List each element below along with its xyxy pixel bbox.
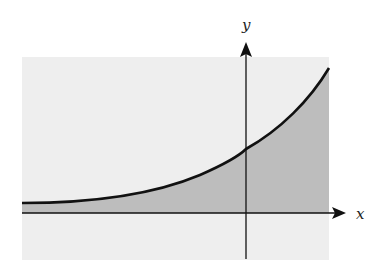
y-axis-label: y <box>241 16 251 34</box>
exponential-graph: y x <box>0 0 381 273</box>
x-axis-label: x <box>356 205 365 223</box>
